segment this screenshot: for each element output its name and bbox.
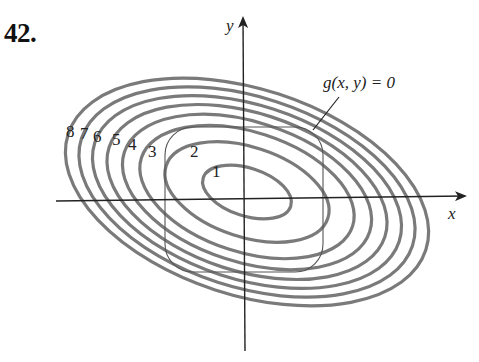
- x-axis-label: x: [447, 204, 456, 223]
- contour-label-2: 2: [190, 142, 199, 161]
- contour-label-3: 3: [148, 142, 157, 161]
- y-axis: [243, 18, 245, 351]
- contour-label-6: 6: [93, 127, 102, 146]
- constraint-leader-line: [313, 97, 339, 130]
- contour-label-4: 4: [128, 135, 137, 154]
- contour-label-8: 8: [66, 122, 75, 141]
- level-curve-5: [85, 72, 410, 312]
- contour-figure: y x g(x, y) = 0 8 7 6 5 4 3 2 1: [0, 0, 479, 362]
- contour-label-1: 1: [212, 162, 221, 181]
- contour-label-5: 5: [112, 130, 121, 149]
- y-axis-label: y: [224, 16, 234, 35]
- contour-label-7: 7: [80, 124, 89, 143]
- constraint-label: g(x, y) = 0: [323, 73, 395, 92]
